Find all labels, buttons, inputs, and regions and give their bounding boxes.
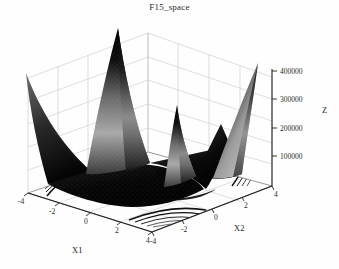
z-tick-label-1: 200000 <box>280 124 303 133</box>
x2-tick-label-4: 4 <box>274 190 278 199</box>
figure-canvas: F15_space <box>0 0 339 269</box>
surface-plot-svg <box>0 0 339 269</box>
z-tick-label-0: 100000 <box>280 152 303 161</box>
x1-tick-label-1: -2 <box>49 207 55 216</box>
x2-axis-label: X2 <box>234 223 244 233</box>
x2-tick-label-3: 2 <box>244 201 248 210</box>
x1-tick-label-2: 0 <box>84 217 88 226</box>
x2-tick-label-0: -4 <box>150 237 156 246</box>
x2-tick-label-2: 0 <box>214 213 218 222</box>
x2-tick-label-1: -2 <box>181 225 187 234</box>
x1-tick-label-0: -4 <box>18 197 24 206</box>
z-axis-ticks <box>272 71 277 156</box>
x1-axis-label: X1 <box>72 245 82 255</box>
z-tick-label-3: 400000 <box>280 67 303 76</box>
z-tick-label-2: 300000 <box>280 95 303 104</box>
z-axis-label: Z <box>322 105 327 115</box>
x1-tick-label-3: 2 <box>115 226 119 235</box>
